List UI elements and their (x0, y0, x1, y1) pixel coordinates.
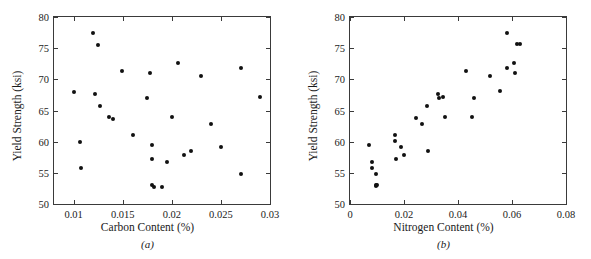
y-axis-tick (350, 48, 354, 49)
data-point (170, 115, 174, 119)
data-point (145, 96, 149, 100)
data-point (219, 145, 223, 149)
y-axis-tick (266, 142, 270, 143)
data-point (370, 166, 374, 170)
x-axis-tick (123, 200, 124, 204)
data-point (374, 172, 378, 176)
data-point (176, 61, 180, 65)
data-point (239, 66, 243, 70)
data-point (512, 61, 516, 65)
y-axis-label-a: Yield Strength (ksi) (11, 51, 23, 181)
data-point (199, 74, 203, 78)
data-point (131, 133, 135, 137)
data-point (258, 95, 262, 99)
x-axis-tick (270, 17, 271, 21)
x-axis-label-a: Carbon Content (%) (0, 221, 295, 233)
y-axis-tick (562, 111, 566, 112)
x-tick-label: 0.025 (209, 209, 233, 220)
data-point (239, 172, 243, 176)
y-axis-tick (350, 79, 354, 80)
y-axis-tick (350, 173, 354, 174)
data-points-a (54, 17, 270, 204)
x-axis-tick (458, 200, 459, 204)
data-point (464, 69, 468, 73)
y-axis-tick (266, 17, 270, 18)
y-tick-label: 70 (27, 74, 49, 85)
data-point (111, 117, 115, 121)
data-point (367, 143, 371, 147)
data-point (420, 122, 424, 126)
data-point (472, 96, 476, 100)
data-point (518, 42, 522, 46)
data-point (498, 89, 502, 93)
data-points-b (350, 17, 566, 204)
data-point (505, 31, 509, 35)
x-axis-tick (74, 200, 75, 204)
y-tick-label: 60 (323, 136, 345, 147)
y-axis-tick (54, 204, 58, 205)
data-point (370, 160, 374, 164)
x-tick-label: 0.01 (64, 209, 82, 220)
data-point (160, 185, 164, 189)
y-axis-tick (266, 204, 270, 205)
data-point (375, 183, 379, 187)
y-axis-tick (350, 17, 354, 18)
y-axis-tick (54, 79, 58, 80)
y-tick-label: 70 (323, 74, 345, 85)
panel-b-nitrogen-content: Yield Strength (ksi) 00.020.040.060.08 5… (296, 0, 591, 259)
x-axis-tick (458, 17, 459, 21)
y-axis-tick (54, 48, 58, 49)
data-point (150, 143, 154, 147)
y-axis-tick (266, 111, 270, 112)
data-point (78, 140, 82, 144)
data-point (96, 43, 100, 47)
y-axis-tick (266, 48, 270, 49)
data-point (148, 71, 152, 75)
data-point (426, 149, 430, 153)
y-axis-tick (350, 204, 354, 205)
x-axis-tick (512, 17, 513, 21)
x-axis-tick (512, 200, 513, 204)
x-tick-label: 0.06 (503, 209, 521, 220)
y-tick-label: 50 (323, 199, 345, 210)
y-tick-label: 65 (323, 105, 345, 116)
data-point (150, 157, 154, 161)
x-axis-tick (566, 17, 567, 21)
x-axis-tick (123, 17, 124, 21)
data-point (93, 92, 97, 96)
data-point (189, 149, 193, 153)
plot-area-b (349, 16, 567, 205)
y-tick-label: 50 (27, 199, 49, 210)
x-axis-tick (221, 17, 222, 21)
y-axis-label-wrap-a: Yield Strength (ksi) (8, 0, 22, 220)
data-point (513, 71, 517, 75)
data-point (425, 104, 429, 108)
y-axis-tick (562, 17, 566, 18)
panel-a-carbon-content: Yield Strength (ksi) 0.010.0150.020.0250… (0, 0, 295, 259)
data-point (441, 95, 445, 99)
y-axis-tick (562, 142, 566, 143)
y-tick-label: 65 (27, 105, 49, 116)
data-point (393, 133, 397, 137)
x-axis-tick (172, 17, 173, 21)
x-axis-label-b: Nitrogen Content (%) (296, 221, 591, 233)
y-axis-tick (350, 142, 354, 143)
y-tick-label: 80 (27, 12, 49, 23)
panel-caption-b: (b) (296, 238, 591, 250)
data-point (120, 69, 124, 73)
y-axis-tick (562, 204, 566, 205)
y-axis-tick (562, 173, 566, 174)
x-axis-tick (221, 200, 222, 204)
x-tick-label: 0.08 (557, 209, 575, 220)
data-point (91, 31, 95, 35)
y-tick-label: 75 (323, 43, 345, 54)
x-tick-label: 0.015 (111, 209, 135, 220)
data-point (209, 122, 213, 126)
data-point (182, 153, 186, 157)
y-axis-tick (266, 79, 270, 80)
data-point (414, 116, 418, 120)
data-point (79, 166, 83, 170)
data-point (152, 185, 156, 189)
y-axis-tick (562, 79, 566, 80)
x-axis-tick (172, 200, 173, 204)
